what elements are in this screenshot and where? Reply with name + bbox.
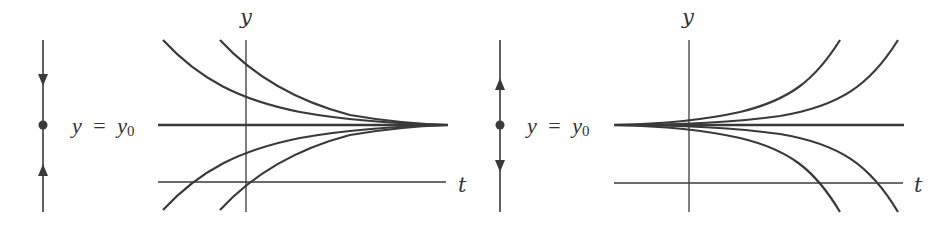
sink-panel: y = y0 y t [38,5,467,212]
equilibrium-label-right: y = y0 [525,113,589,139]
phase-line-left [38,40,48,212]
equilibrium-dot [39,121,48,130]
down-arrow-icon [495,160,505,172]
up-arrow-icon [38,164,48,176]
equilibrium-dot [496,121,505,130]
y-axis-label-left: y [239,5,253,29]
up-arrow-icon [495,78,505,90]
down-arrow-icon [38,74,48,86]
source-panel: y = y0 y t [495,5,923,212]
t-axis-label-left: t [458,173,467,197]
equilibrium-label-left: y = y0 [70,113,134,139]
y-axis-label-right: y [681,5,695,29]
t-axis-label-right: t [914,173,923,197]
phase-line-right [495,40,505,212]
phase-diagrams: y = y0 y t y = y0 [0,0,947,227]
